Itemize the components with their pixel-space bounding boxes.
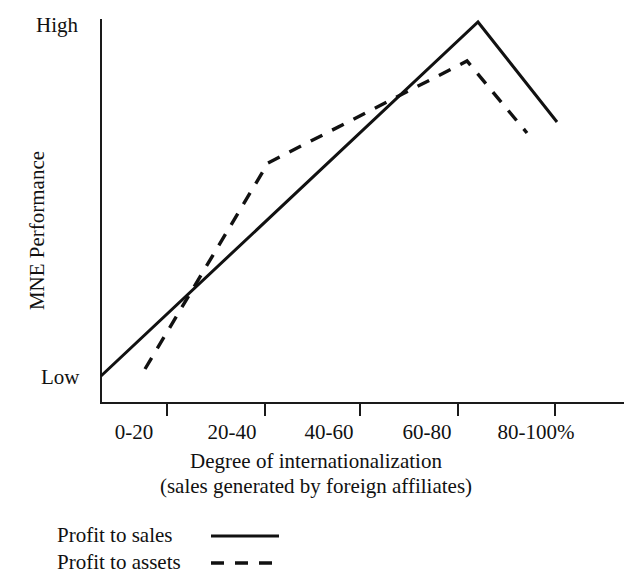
legend-swatch-solid-line <box>209 529 281 543</box>
chart-figure: High Low MNE Performance 0-20 20-40 40-6… <box>0 0 639 584</box>
chart-legend: Profit to sales Profit to assets <box>57 522 281 576</box>
x-axis-tick-label-0: 0-20 <box>115 420 154 445</box>
legend-swatch-dashed-line <box>209 556 281 570</box>
legend-label-profit-to-assets: Profit to assets <box>57 550 209 575</box>
x-axis-title-line-1: Degree of internationalization <box>190 449 442 473</box>
y-axis-label-low: Low <box>41 365 80 389</box>
series-line-profit-to-assets <box>145 61 527 369</box>
y-axis-label-high: High <box>36 13 78 37</box>
x-axis-title-line-2: (sales generated by foreign affiliates) <box>101 474 531 499</box>
legend-label-profit-to-sales: Profit to sales <box>57 523 209 548</box>
x-axis-tick-label-1: 20-40 <box>208 420 257 445</box>
x-axis-tick-label-4: 80-100% <box>498 420 575 445</box>
series-line-profit-to-sales <box>101 22 557 376</box>
x-axis-tick-label-2: 40-60 <box>305 420 354 445</box>
legend-item-profit-to-sales: Profit to sales <box>57 522 281 549</box>
y-axis-title: MNE Performance <box>25 131 50 331</box>
x-axis-title: Degree of internationalization (sales ge… <box>101 449 531 499</box>
x-axis-tick-label-3: 60-80 <box>403 420 452 445</box>
legend-item-profit-to-assets: Profit to assets <box>57 549 281 576</box>
